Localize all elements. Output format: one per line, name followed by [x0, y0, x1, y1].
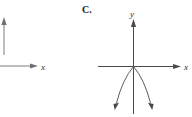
partial-x-axis-arrowhead-icon: [30, 63, 38, 68]
figure-sheet: x C. x y: [0, 0, 192, 117]
choice-label-c: C.: [82, 4, 92, 15]
figure-c-left-branch-arrowhead-icon: [113, 103, 119, 110]
partial-y-axis-arrowhead-icon: [1, 17, 6, 25]
figure-c-right-branch-arrowhead-icon: [148, 103, 154, 110]
figures-svg-canvas: x C. x y: [0, 0, 192, 117]
figure-c-y-axis-arrowhead-icon: [131, 19, 136, 27]
figure-c: C. x y: [82, 4, 188, 114]
figure-c-y-axis-label: y: [129, 9, 134, 19]
partial-figure-x-axis-label: x: [40, 62, 45, 72]
figure-c-x-axis-arrowhead-icon: [173, 64, 181, 69]
partial-figure-left: x: [0, 17, 45, 72]
figure-c-x-axis-label: x: [183, 62, 188, 72]
